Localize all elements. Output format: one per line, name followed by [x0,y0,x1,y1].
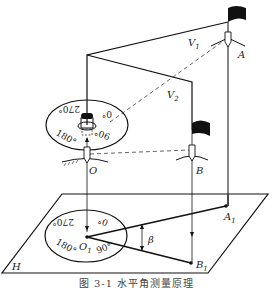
flag-a-icon [228,6,246,22]
arrow-o1 [85,226,89,231]
dial-label-0: 0° [102,109,112,119]
figure-caption: 图 3-1 水平角测量原理 [0,275,273,290]
label-a1: A1 [223,211,236,225]
projected-label-90: 90° [95,241,113,256]
arrow-b1 [190,232,194,237]
ground-stake-a-icon [211,32,245,47]
flag-b-icon [192,121,210,137]
projected-label-270: 270° [52,217,74,227]
dial-label-270: 270° [58,104,80,114]
projected-label-0: 0° [96,215,109,228]
label-v1: V1 [188,37,200,51]
label-h: H [11,261,21,272]
arrow-o-up [85,137,89,142]
label-b: B [195,165,203,176]
ground-stake-o-icon [62,147,108,166]
horizontal-angle-diagram: 270° 0° 180° 90° 270° 0° 180° 90° A B O … [0,0,273,291]
projected-label-180: 180° [54,237,78,257]
angle-beta-arrow [140,224,144,251]
sight-line-oa [110,42,222,122]
dial-label-180: 180° [54,128,78,148]
label-a: A [237,49,245,60]
dial-label-90: 90° [93,127,111,142]
ground-stake-b-icon [176,145,208,161]
label-o: O [89,165,97,176]
label-beta: β [147,234,154,245]
label-o1: O1 [79,241,92,255]
label-b1: B1 [195,259,208,273]
label-v2: V2 [167,89,179,103]
sight-line-ob [90,150,190,154]
